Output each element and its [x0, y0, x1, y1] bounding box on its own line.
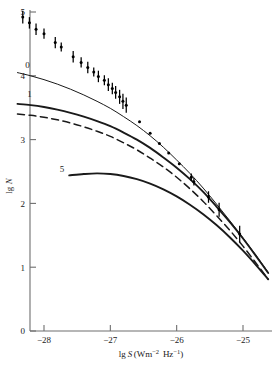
data-marker: [54, 41, 57, 44]
y-tick-label: 0: [21, 326, 26, 336]
source-count-chart: 012345 −28−27−26−25 015 lgS(Wm−2 Hz−1) l…: [0, 0, 280, 368]
data-marker: [190, 176, 193, 179]
data-marker: [218, 208, 221, 211]
data-marker: [80, 61, 83, 64]
data-marker: [92, 70, 95, 73]
data-marker: [207, 196, 210, 199]
data-point: [178, 162, 181, 165]
curve-label-5: 5: [60, 164, 65, 174]
y-tick-label: 3: [21, 135, 26, 145]
data-marker: [192, 180, 195, 183]
curve-label-1: 1: [27, 89, 32, 99]
data-marker: [149, 132, 152, 135]
data-marker: [103, 79, 106, 82]
x-tick-label: −25: [236, 335, 251, 345]
y-tick-label: 4: [21, 71, 26, 81]
data-marker: [107, 83, 110, 86]
data-marker: [138, 120, 141, 123]
data-marker: [238, 233, 241, 236]
data-marker: [72, 55, 75, 58]
data-marker: [86, 66, 89, 69]
data-marker: [21, 16, 24, 19]
data-point: [149, 132, 152, 135]
y-tick-label: 1: [21, 263, 26, 273]
chart-canvas: 012345 −28−27−26−25 015 lgS(Wm−2 Hz−1) l…: [0, 0, 280, 368]
data-marker: [114, 91, 117, 94]
chart-background: [0, 0, 280, 368]
data-marker: [35, 28, 38, 31]
data-marker: [97, 75, 100, 78]
data-marker: [111, 87, 114, 90]
data-marker: [125, 104, 128, 107]
data-point: [158, 142, 161, 145]
y-tick-label: 2: [21, 199, 26, 209]
x-tick-label: −28: [37, 335, 52, 345]
data-point: [138, 120, 141, 123]
data-marker: [167, 151, 170, 154]
data-marker: [178, 162, 181, 165]
data-marker: [28, 21, 31, 24]
data-marker: [121, 100, 124, 103]
data-marker: [118, 95, 121, 98]
data-point: [167, 151, 170, 154]
x-tick-label: −27: [103, 335, 118, 345]
x-tick-label: −26: [170, 335, 185, 345]
data-marker: [60, 46, 63, 49]
curve-label-0: 0: [25, 60, 30, 70]
data-marker: [43, 32, 46, 35]
data-marker: [158, 142, 161, 145]
